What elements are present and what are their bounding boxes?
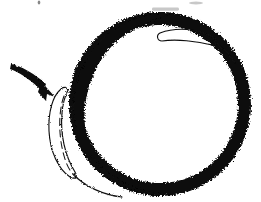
smudge-top-center	[152, 8, 179, 11]
speck-top-left	[38, 0, 41, 4]
figure-canvas	[0, 0, 261, 202]
speck-top-right	[189, 2, 203, 5]
ring-sketch-svg	[0, 0, 261, 202]
